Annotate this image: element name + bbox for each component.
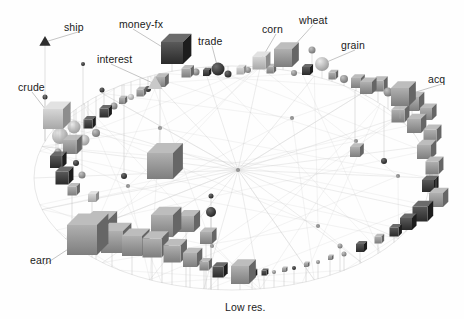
node-label-trade: trade: [198, 36, 222, 47]
graph-nodes: [39, 34, 448, 290]
node-label-crude: crude: [18, 82, 45, 93]
node-label-acq: acq: [428, 74, 445, 85]
graph-visualization: [0, 0, 464, 319]
node-label-wheat: wheat: [299, 15, 328, 26]
node-label-money-fx: money-fx: [119, 19, 163, 30]
node-label-corn: corn: [262, 24, 283, 35]
caption-low-res: Low res.: [225, 302, 265, 313]
node-label-ship: ship: [64, 22, 84, 33]
node-label-interest: interest: [97, 54, 132, 65]
node-label-grain: grain: [341, 40, 365, 51]
graph-edges: [34, 66, 430, 290]
node-label-earn: earn: [30, 255, 51, 266]
